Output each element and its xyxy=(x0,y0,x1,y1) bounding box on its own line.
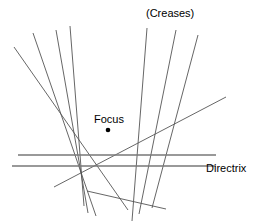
crease-4 xyxy=(70,26,84,206)
crease-7 xyxy=(152,35,198,208)
crease-5 xyxy=(132,28,147,221)
crease-2 xyxy=(33,33,96,216)
directrix-label: Directrix xyxy=(206,163,246,174)
crease-8 xyxy=(54,97,226,187)
directrix-lines-group xyxy=(12,155,216,166)
focus-label: Focus xyxy=(94,114,124,125)
crease-1 xyxy=(14,47,128,210)
parabola-crease-diagram: (Creases) Focus Directrix xyxy=(0,0,261,223)
diagram-canvas xyxy=(0,0,261,223)
focus-point xyxy=(106,128,111,133)
creases-label: (Creases) xyxy=(146,8,194,19)
